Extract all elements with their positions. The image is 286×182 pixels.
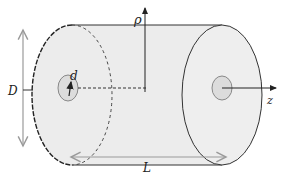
D-label: D — [7, 84, 18, 98]
rho-label: ρ — [133, 12, 142, 27]
L-label: L — [142, 161, 151, 175]
z-label: z — [266, 94, 273, 107]
cylinder-diagram: ρ z d D L — [0, 0, 286, 182]
d-label: d — [70, 69, 78, 83]
